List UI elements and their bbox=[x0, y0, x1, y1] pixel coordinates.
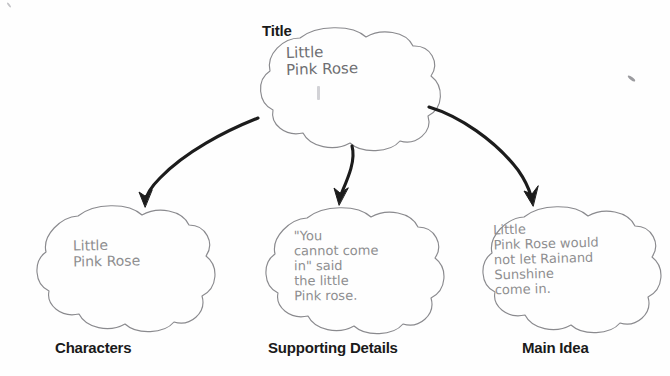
stray-pen-mark-title-under bbox=[317, 86, 320, 100]
characters-label: Characters bbox=[55, 339, 131, 356]
supporting-details-label: Supporting Details bbox=[268, 339, 398, 356]
arrow-title-to-supporting-details bbox=[334, 146, 353, 205]
main-idea-label: Main Idea bbox=[522, 339, 589, 356]
title-label: Title bbox=[262, 22, 292, 39]
characters-handwritten-answer: Little Pink Rose bbox=[73, 236, 141, 269]
main-idea-handwritten-answer: Little Pink Rose would not let Rainand S… bbox=[493, 221, 600, 298]
title-handwritten-answer: Little Pink Rose bbox=[286, 43, 359, 79]
arrow-title-to-main-idea bbox=[429, 107, 538, 206]
worksheet-page: Title Characters Supporting Details Main… bbox=[0, 0, 670, 376]
supporting-details-handwritten-answer: "You cannot come in" said the little Pin… bbox=[294, 229, 379, 304]
arrow-title-to-characters bbox=[139, 118, 258, 207]
